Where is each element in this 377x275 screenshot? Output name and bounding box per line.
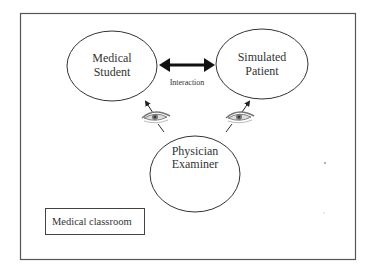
- patient-line1: Simulated: [238, 50, 287, 64]
- student-line2: Student: [94, 65, 131, 79]
- node-physician-examiner: Physician Examiner: [150, 136, 240, 212]
- eye-icon: [226, 112, 254, 123]
- examiner-line2: Examiner: [172, 157, 219, 171]
- gaze-arrow-left: [146, 102, 153, 113]
- gaze-line-right: [226, 124, 232, 132]
- student-line1: Medical: [92, 51, 132, 65]
- interaction-label: Interaction: [170, 78, 205, 87]
- classroom-label-box: Medical classroom: [46, 209, 145, 235]
- gaze-arrow-right: [242, 102, 249, 112]
- gaze-line-left: [158, 124, 164, 132]
- observation-diagram: Medical Student Simulated Patient Intera…: [0, 0, 377, 275]
- classroom-label: Medical classroom: [52, 216, 132, 227]
- node-simulated-patient: Simulated Patient: [216, 29, 308, 99]
- patient-line2: Patient: [245, 64, 279, 78]
- eye-icon: [142, 112, 170, 123]
- interaction-arrow: Interaction: [159, 58, 215, 87]
- speck: [323, 212, 324, 213]
- node-medical-student: Medical Student: [67, 31, 157, 101]
- examiner-line1: Physician: [172, 144, 219, 158]
- speck: [324, 162, 326, 164]
